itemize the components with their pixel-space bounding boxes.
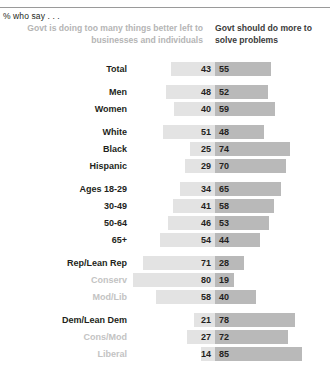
bar-track: 2970 (0, 159, 330, 173)
value-right: 70 (219, 159, 259, 173)
column-header-left: Govt is doing too many things better lef… (0, 23, 209, 46)
value-right: 85 (219, 347, 259, 361)
chart-row: Dem/Lean Dem2178 (0, 313, 330, 327)
bar-track: 2772 (0, 330, 330, 344)
chart-row: Men4852 (0, 85, 330, 99)
value-right: 55 (219, 62, 259, 76)
row-group: Rep/Lean Rep7128Conserv8019Mod/Lib5840 (0, 256, 330, 304)
bar-track: 5444 (0, 233, 330, 247)
value-left: 43 (171, 62, 211, 76)
chart-rows: Total4355Men4852Women4059White5148Black2… (0, 62, 330, 361)
value-right: 19 (219, 273, 259, 287)
kicker-text: % who say . . . (3, 11, 60, 21)
value-left: 29 (171, 159, 211, 173)
bar-track: 4059 (0, 102, 330, 116)
chart-row: Women4059 (0, 102, 330, 116)
column-header-right: Govt should do more to solve problems (215, 23, 330, 46)
bar-track: 3465 (0, 182, 330, 196)
row-group: Total4355 (0, 62, 330, 76)
chart-row: Cons/Mod2772 (0, 330, 330, 344)
value-right: 65 (219, 182, 259, 196)
value-left: 40 (171, 102, 211, 116)
bar-track: 4158 (0, 199, 330, 213)
top-rule (0, 7, 330, 8)
value-right: 58 (219, 199, 259, 213)
value-right: 59 (219, 102, 259, 116)
chart-row: Mod/Lib5840 (0, 290, 330, 304)
value-right: 74 (219, 142, 259, 156)
bar-track: 8019 (0, 273, 330, 287)
chart-row: Total4355 (0, 62, 330, 76)
chart-row: Hispanic2970 (0, 159, 330, 173)
chart-row: Rep/Lean Rep7128 (0, 256, 330, 270)
chart-row: Conserv8019 (0, 273, 330, 287)
value-right: 44 (219, 233, 259, 247)
bar-track: 4852 (0, 85, 330, 99)
value-right: 40 (219, 290, 259, 304)
chart-row: 30-494158 (0, 199, 330, 213)
value-left: 34 (171, 182, 211, 196)
chart-row: White5148 (0, 125, 330, 139)
value-right: 28 (219, 256, 259, 270)
value-left: 71 (171, 256, 211, 270)
value-left: 41 (171, 199, 211, 213)
value-left: 48 (171, 85, 211, 99)
chart-row: Ages 18-293465 (0, 182, 330, 196)
bar-track: 2574 (0, 142, 330, 156)
row-group: White5148Black2574Hispanic2970 (0, 125, 330, 173)
bar-track: 4355 (0, 62, 330, 76)
value-left: 25 (171, 142, 211, 156)
row-group: Men4852Women4059 (0, 85, 330, 116)
chart-row: Liberal1485 (0, 347, 330, 361)
value-right: 78 (219, 313, 259, 327)
bar-track: 7128 (0, 256, 330, 270)
value-right: 72 (219, 330, 259, 344)
value-right: 48 (219, 125, 259, 139)
row-group: Ages 18-29346530-49415850-64465365+5444 (0, 182, 330, 247)
bar-track: 4653 (0, 216, 330, 230)
value-left: 14 (171, 347, 211, 361)
row-group: Dem/Lean Dem2178Cons/Mod2772Liberal1485 (0, 313, 330, 361)
value-right: 53 (219, 216, 259, 230)
bar-track: 5148 (0, 125, 330, 139)
bar-track: 2178 (0, 313, 330, 327)
chart-row: 50-644653 (0, 216, 330, 230)
value-left: 80 (171, 273, 211, 287)
value-left: 54 (171, 233, 211, 247)
chart-row: 65+5444 (0, 233, 330, 247)
value-left: 46 (171, 216, 211, 230)
value-left: 58 (171, 290, 211, 304)
value-left: 27 (171, 330, 211, 344)
chart-row: Black2574 (0, 142, 330, 156)
value-left: 21 (171, 313, 211, 327)
value-right: 52 (219, 85, 259, 99)
value-left: 51 (171, 125, 211, 139)
bar-track: 1485 (0, 347, 330, 361)
bar-track: 5840 (0, 290, 330, 304)
